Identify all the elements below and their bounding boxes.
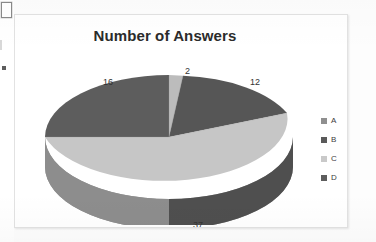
legend-label-c: C bbox=[331, 155, 337, 163]
legend-swatch-a-icon bbox=[321, 118, 327, 124]
scan-left-margin bbox=[0, 0, 14, 242]
legend-swatch-d-icon bbox=[321, 175, 327, 181]
pie-data-label-d: 16 bbox=[103, 77, 113, 87]
legend-swatch-b-icon bbox=[321, 137, 327, 143]
legend-label-a: A bbox=[331, 117, 336, 125]
scan-artifact-streak bbox=[0, 40, 2, 50]
pie-data-label-a: 2 bbox=[185, 66, 190, 76]
legend-label-b: B bbox=[331, 136, 336, 144]
legend-item-c[interactable]: C bbox=[321, 151, 348, 167]
chart-frame: Number of Answers bbox=[14, 14, 348, 228]
pie-data-label-c: 37 bbox=[193, 220, 203, 228]
chart-title: Number of Answers bbox=[15, 27, 315, 44]
legend-item-b[interactable]: B bbox=[321, 132, 348, 148]
pie-plot-area bbox=[23, 49, 315, 225]
scan-artifact-top bbox=[1, 2, 12, 18]
pie-chart-svg bbox=[23, 49, 315, 225]
chart-legend: A B C D bbox=[321, 113, 348, 189]
legend-label-d: D bbox=[331, 174, 337, 182]
legend-item-d[interactable]: D bbox=[321, 170, 348, 186]
pie-data-label-b: 12 bbox=[250, 77, 260, 87]
scan-artifact-speck bbox=[2, 66, 6, 70]
legend-item-a[interactable]: A bbox=[321, 113, 348, 129]
legend-swatch-c-icon bbox=[321, 156, 327, 162]
